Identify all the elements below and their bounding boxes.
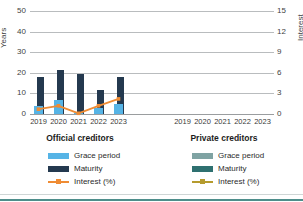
y-tick-left: 10 [0, 89, 26, 97]
legend-swatch-maturity-icon [48, 166, 69, 172]
legend-swatch-interest-line-icon [48, 178, 69, 185]
legend-label: Maturity [218, 164, 246, 173]
x-tick-official: 2019 [30, 117, 47, 126]
chart-figure: Years Interest (%) 50 40 30 20 10 0 15 1… [0, 0, 303, 202]
legend-label: Interest (%) [74, 177, 115, 186]
legend-official: Grace period Maturity Interest (%) [48, 150, 120, 189]
footer-divider-accent [0, 199, 303, 201]
legend-label: Grace period [218, 151, 264, 160]
y-tick-left: 50 [0, 7, 26, 15]
legend-item-private-interest[interactable]: Interest (%) [192, 176, 264, 187]
y-tick-right: 9 [277, 48, 281, 56]
legend-swatch-grace-icon [192, 153, 213, 159]
footer-divider-light [0, 194, 303, 195]
legend-item-official-grace[interactable]: Grace period [48, 150, 120, 161]
y-tick-left: 40 [0, 28, 26, 36]
x-tick-private: 2023 [254, 117, 271, 126]
legend-swatch-grace-icon [48, 153, 69, 159]
legend-swatch-interest-line-icon [192, 178, 213, 185]
y-tick-left: 30 [0, 48, 26, 56]
legend-item-private-maturity[interactable]: Maturity [192, 163, 264, 174]
panel-private-plot [174, 11, 274, 114]
y-axis-ticks-left: 50 40 30 20 10 0 [0, 0, 26, 120]
y-tick-left: 0 [0, 110, 26, 118]
y-tick-right: 3 [277, 89, 281, 97]
x-tick-official: 2021 [70, 117, 87, 126]
panel-official-plot [30, 11, 130, 114]
legend-label: Interest (%) [218, 177, 259, 186]
panel-title-official: Official creditors [46, 133, 114, 143]
x-tick-official: 2022 [90, 117, 107, 126]
x-axis-ticks-official: 2019 2020 2021 2022 2023 [30, 117, 130, 128]
y-tick-right: 6 [277, 69, 281, 77]
y-axis-ticks-right: 15 12 9 6 3 0 [277, 0, 297, 120]
x-tick-official: 2023 [110, 117, 127, 126]
legend-swatch-maturity-icon [192, 166, 213, 172]
y-tick-right: 12 [277, 28, 286, 36]
legend-label: Maturity [74, 164, 102, 173]
y-axis-label-right: Interest (%) [296, 14, 303, 41]
x-tick-private: 2022 [234, 117, 251, 126]
legend-private: Grace period Maturity Interest (%) [192, 150, 264, 189]
x-tick-private: 2021 [214, 117, 231, 126]
x-tick-official: 2020 [50, 117, 67, 126]
y-tick-right: 0 [277, 110, 281, 118]
x-axis-ticks-private: 2019 2020 2021 2022 2023 [174, 117, 274, 128]
x-tick-private: 2020 [194, 117, 211, 126]
x-tick-private: 2019 [174, 117, 191, 126]
x-axis-line [30, 114, 274, 115]
legend-item-official-maturity[interactable]: Maturity [48, 163, 120, 174]
line-official-interest [30, 11, 130, 114]
legend-label: Grace period [74, 151, 120, 160]
y-tick-left: 20 [0, 69, 26, 77]
legend-item-official-interest[interactable]: Interest (%) [48, 176, 120, 187]
y-tick-right: 15 [277, 7, 286, 15]
legend-item-private-grace[interactable]: Grace period [192, 150, 264, 161]
panel-title-private: Private creditors [190, 133, 257, 143]
